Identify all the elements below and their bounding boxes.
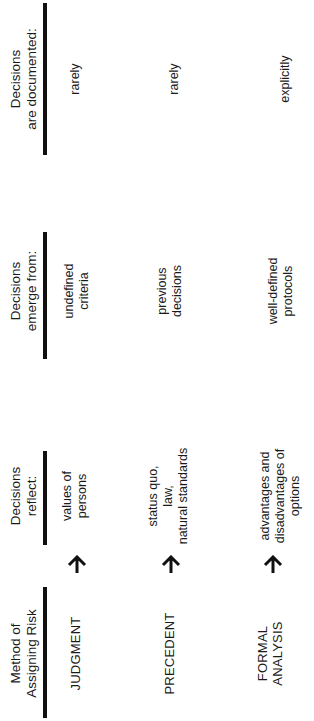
cell-well-defined-protocols: well-defined protocols: [266, 221, 296, 361]
row-formal-analysis: FORMAL ANALYSIS: [255, 586, 285, 721]
cell-line: rarely: [68, 3, 83, 155]
cell-undefined-criteria: undefined criteria: [62, 221, 92, 361]
risk-assignment-diagram: Method of Assigning Risk JUDGMENT PRECED…: [0, 0, 314, 721]
column-method: Method of Assigning Risk JUDGMENT PRECED…: [0, 586, 314, 721]
cell-line: values of: [60, 441, 75, 551]
header-line: Assigning Risk: [24, 586, 40, 721]
arrow-right-icon: [66, 555, 88, 575]
cell-values-of-persons: values of persons: [60, 441, 90, 551]
cell-line: PRECEDENT: [162, 586, 177, 721]
arrow-right-icon: [160, 555, 182, 575]
cell-line: decisions: [170, 221, 185, 361]
row-precedent: PRECEDENT: [162, 586, 177, 721]
column-emerge: Decisions emerge from: undefined criteri…: [0, 221, 314, 361]
cell-advantages: advantages and disadvantages of options: [258, 441, 303, 551]
cell-line: natural standards: [176, 441, 191, 551]
header-underline: [43, 232, 47, 359]
header-method: Method of Assigning Risk: [8, 586, 40, 721]
header-line: emerge from:: [24, 221, 40, 361]
cell-status-quo: status quo, law, natural standards: [146, 441, 191, 551]
cell-rarely-judgment: rarely: [68, 3, 83, 155]
header-emerge: Decisions emerge from:: [8, 221, 40, 361]
cell-line: ANALYSIS: [270, 586, 285, 721]
cell-previous-decisions: previous decisions: [155, 221, 185, 361]
column-documented: Decisions are documented: rarely rarely …: [0, 3, 314, 155]
header-line: Decisions: [8, 3, 24, 155]
cell-rarely-precedent: rarely: [167, 3, 182, 155]
header-underline: [43, 587, 47, 718]
cell-line: JUDGMENT: [68, 586, 83, 721]
cell-line: disadvantages of: [273, 441, 288, 551]
cell-line: law,: [161, 441, 176, 551]
cell-line: well-defined: [266, 221, 281, 361]
header-documented: Decisions are documented:: [8, 3, 40, 155]
column-reflect: Decisions reflect: values of persons sta…: [0, 441, 314, 551]
cell-line: status quo,: [146, 441, 161, 551]
header-line: reflect:: [24, 441, 40, 551]
arrow-right-icon: [262, 555, 284, 575]
cell-line: previous: [155, 221, 170, 361]
header-line: Decisions: [8, 441, 24, 551]
header-underline: [43, 3, 47, 155]
cell-line: advantages and: [258, 441, 273, 551]
cell-line: criteria: [77, 221, 92, 361]
cell-line: FORMAL: [255, 586, 270, 721]
cell-line: protocols: [281, 221, 296, 361]
cell-explicitly: explicitly: [278, 3, 293, 155]
cell-line: options: [288, 441, 303, 551]
header-line: Method of: [8, 586, 24, 721]
cell-line: explicitly: [278, 3, 293, 155]
header-reflect: Decisions reflect:: [8, 441, 40, 551]
cell-line: persons: [75, 441, 90, 551]
cell-line: rarely: [167, 3, 182, 155]
header-line: are documented:: [24, 3, 40, 155]
header-line: Decisions: [8, 221, 24, 361]
cell-line: undefined: [62, 221, 77, 361]
row-judgment: JUDGMENT: [68, 586, 83, 721]
header-underline: [43, 451, 47, 545]
